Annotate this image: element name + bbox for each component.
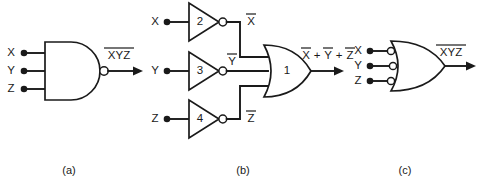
panel-b-output-operator-2: + (336, 49, 343, 61)
panel-a-caption: (a) (62, 164, 75, 176)
panel-b-signal-label-zbar: Z (247, 112, 254, 124)
panel-b-output-arrowhead (334, 67, 344, 76)
panel-a-output-expression: XYZ (108, 49, 130, 61)
panel-b-output-term-3: Z (346, 49, 353, 61)
panel-b-inverter-2-body (189, 3, 219, 41)
panel-b-caption: (b) (236, 164, 249, 176)
panel-b-input-label-z: Z (151, 112, 158, 124)
panel-b-inverter-3-number: 3 (197, 64, 203, 76)
logic-diagram-figure: X Y Z XYZ (a) X Y Z (0, 0, 485, 182)
panel-a-input-label-x: X (7, 46, 15, 58)
panel-b-input-label-y: Y (151, 64, 159, 76)
panel-b-inverter-2-bubble (219, 18, 227, 26)
panel-b-output-expression: X + Y + Z (301, 48, 355, 61)
panel-b-inverter-4-body (189, 100, 219, 138)
panel-b-output-operator-1: + (314, 49, 321, 61)
panel-c-or-gate-body (391, 41, 445, 91)
panel-b-inverter-4-number: 4 (197, 112, 204, 124)
panel-b-input-label-x: X (151, 15, 159, 27)
panel-b-signal-label-ybar: Y (228, 55, 236, 67)
panel-c-input-label-x: X (354, 44, 362, 56)
panel-b-wire-xbar (227, 22, 268, 57)
panel-c-output-arrowhead (466, 62, 476, 71)
panel-a-input-label-y: Y (7, 64, 15, 76)
panel-a-nand: X Y Z XYZ (a) (7, 42, 143, 176)
panel-b-inverter-3-bubble (219, 67, 227, 75)
panel-a-input-label-z: Z (7, 82, 14, 94)
panel-c-input-inversion-bubble-y (389, 62, 396, 69)
panel-b-inverter-4-bubble (219, 115, 227, 123)
panel-c-input-label-z: Z (354, 74, 361, 86)
panel-b-inverters-or: X Y Z 2 3 4 X Y Z (151, 3, 355, 176)
panel-b-output-term-1: X (302, 49, 310, 61)
panel-c-caption: (c) (399, 164, 412, 176)
panel-a-output-inversion-bubble (100, 67, 108, 75)
panel-b-signal-label-xbar: X (247, 15, 255, 27)
panel-a-and-gate-body (45, 42, 100, 100)
panel-a-output-arrowhead (133, 67, 143, 76)
panel-b-or-gate-number: 1 (284, 64, 290, 76)
panel-c-input-label-y: Y (354, 59, 362, 71)
panel-b-inverter-3-body (189, 52, 219, 90)
panel-c-input-inversion-bubble-z (387, 77, 394, 84)
panel-c-output-expression: XYZ (440, 46, 462, 58)
circuit-canvas: X Y Z XYZ (a) X Y Z (0, 0, 485, 182)
panel-b-inverter-2-number: 2 (197, 15, 203, 27)
panel-c-or-inverted-inputs: X Y Z XYZ (c) (354, 41, 476, 176)
panel-c-input-inversion-bubble-x (387, 47, 394, 54)
panel-b-output-term-2: Y (324, 49, 332, 61)
